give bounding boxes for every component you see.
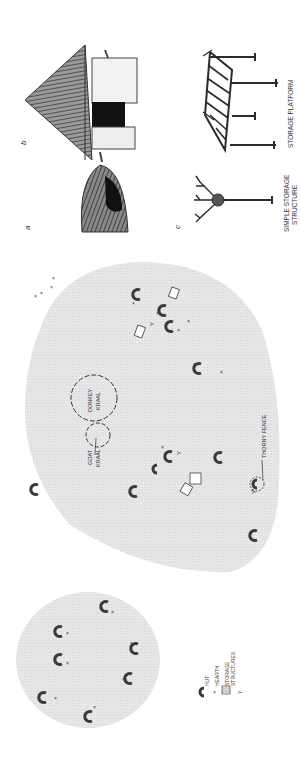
settlement-figure: b a STORAGE PLATFORM c SIMPLE STORAGE <box>0 0 301 759</box>
storage-platform-drawing <box>203 50 278 150</box>
hut-icon <box>200 688 204 696</box>
legend: HUT × HEARTH STORAGE STRUCTURES Y <box>200 651 243 696</box>
goat-kraal-label-line1: GOAT <box>87 449 93 465</box>
small-settlement-map: × × × × × × × <box>16 592 160 728</box>
panel-letter-b: b <box>19 140 28 145</box>
legend-hearth-label: HEARTH <box>214 665 220 686</box>
hut-drawing-a <box>81 165 128 232</box>
legend-hut-label: HUT <box>204 676 210 686</box>
simple-storage-label-line2: STRUCTURE <box>291 184 298 225</box>
hearth-icon: × <box>50 284 53 290</box>
legend-structures-label: STRUCTURES <box>230 651 236 686</box>
y-marker-icon: Y <box>237 690 243 694</box>
donkey-kraal-label-line1: DONKEY <box>87 388 93 412</box>
hearth-icon: × <box>220 369 223 375</box>
simple-storage-label-line1: SIMPLE STORAGE <box>283 174 290 232</box>
hut-drawing-b <box>25 45 137 162</box>
storage-platform-label: STORAGE PLATFORM <box>287 80 294 148</box>
hearth-icon: × <box>93 704 96 710</box>
hearth-icon: × <box>34 293 37 299</box>
hearth-icon: × <box>177 327 180 333</box>
hearth-icon: × <box>132 300 135 306</box>
storage-structures-icon <box>190 473 201 484</box>
hearth-icon: × <box>66 660 69 666</box>
thorny-fence-label: THORNY FENCE <box>261 414 267 458</box>
donkey-kraal-label-line2: KRAAL <box>95 392 101 410</box>
hearth-icon: × <box>40 290 43 296</box>
simple-storage-structure-drawing <box>194 176 272 222</box>
hearth-icon: × <box>187 318 190 324</box>
hut-icon <box>31 485 38 495</box>
hearth-icon: × <box>111 609 114 615</box>
y-marker-icon: Y <box>176 451 182 455</box>
hearth-icon: × <box>156 310 159 316</box>
y-marker-icon: Y <box>251 490 257 494</box>
y-marker-icon: Y <box>149 322 155 326</box>
hearth-icon: × <box>130 640 133 646</box>
large-settlement-map: DONKEY KRAAL GOAT KRAAL THORNY FENCE <box>25 262 280 572</box>
goat-kraal-label-line2: KRAAL <box>95 449 101 467</box>
hearth-icon: × <box>122 676 125 682</box>
panel-letter-c: c <box>173 225 182 229</box>
hearth-icon: × <box>66 630 69 636</box>
hearth-icon: × <box>161 444 164 450</box>
hearth-icon: × <box>193 361 196 367</box>
hearth-icon: × <box>213 689 216 695</box>
hearth-icon: × <box>54 695 57 701</box>
hearth-icon: × <box>52 275 55 281</box>
panel-letter-a: a <box>23 225 32 230</box>
